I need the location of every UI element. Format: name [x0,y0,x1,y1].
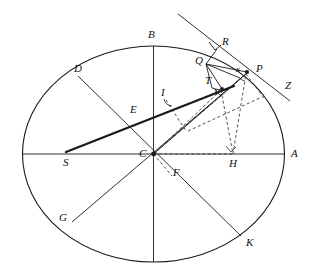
label-V: V [214,88,220,97]
angle-mark-at-I-icon [164,99,172,106]
label-F: F [173,167,180,178]
dashed-I-to-below [166,100,186,131]
label-R: R [222,36,229,47]
label-H: H [229,158,237,169]
label-K: K [246,237,253,248]
geometry-figure: B R Q P D x Z T V I E S C H A F G K [0,0,314,279]
label-I: I [161,87,165,98]
label-x: x [236,65,240,74]
node-P-dot [245,70,249,74]
angle-mark-at-P-icon [240,78,245,81]
label-Q: Q [195,55,203,66]
label-E: E [130,104,137,115]
label-P: P [256,63,263,74]
dashed-V-to-H [221,90,233,154]
label-T: T [205,75,211,86]
node-V-dot [220,87,224,91]
label-A: A [291,148,298,159]
segment-Q-R [206,49,217,64]
label-Z: Z [285,80,291,91]
label-C: C [139,148,146,159]
label-D: D [74,63,82,74]
segment-Q-P [206,64,247,72]
node-C-dot [151,152,156,157]
label-S: S [63,157,69,168]
label-G: G [59,212,67,223]
thick-chord-S-P [66,86,234,152]
diagram-canvas [0,0,314,279]
label-B: B [148,29,155,40]
